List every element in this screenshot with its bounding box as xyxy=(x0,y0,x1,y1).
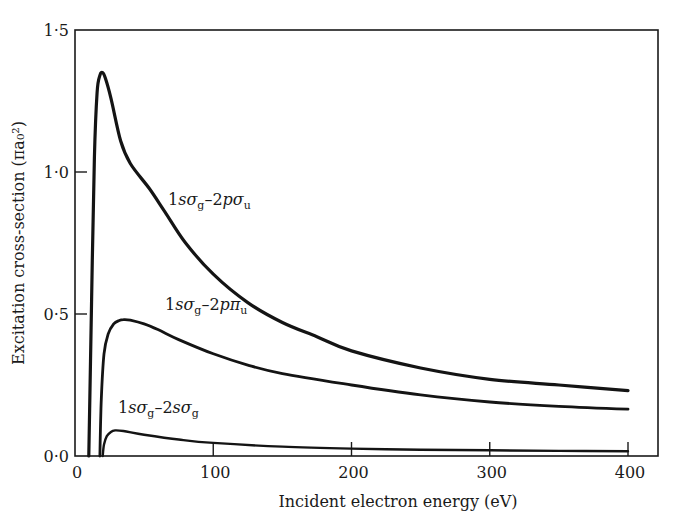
x-tick-label: 400 xyxy=(615,463,646,482)
x-axis-title: Incident electron energy (eV) xyxy=(278,492,517,511)
series-labels: 1sσg–2pσu1sσg–2pπu1sσg–2sσg xyxy=(118,190,251,420)
series-label-1: 1sσg–2pσu xyxy=(168,190,251,212)
y-axis-ticks: 0·00·51·01·5 xyxy=(44,21,87,466)
x-tick-label: 100 xyxy=(200,463,231,482)
series-curve-3 xyxy=(103,430,628,456)
x-tick-label: 200 xyxy=(338,463,369,482)
axes-box xyxy=(75,30,658,456)
series-label-2: 1sσg–2pπu xyxy=(165,295,247,317)
y-tick-label: 1·5 xyxy=(44,21,69,40)
x-tick-label: 300 xyxy=(476,463,507,482)
series-label-3: 1sσg–2sσg xyxy=(118,398,199,420)
y-axis-title: Excitation cross-section (πa₀²) xyxy=(9,121,28,365)
cross-section-chart: 0100200300400 0·00·51·01·5 1sσg–2pσu1sσg… xyxy=(0,0,673,518)
y-tick-label: 1·0 xyxy=(44,163,69,182)
y-tick-label: 0·0 xyxy=(44,447,69,466)
x-tick-label: 0 xyxy=(72,463,82,482)
series-curve-2 xyxy=(100,320,628,456)
plot-frame xyxy=(75,30,658,456)
y-tick-label: 0·5 xyxy=(44,305,69,324)
